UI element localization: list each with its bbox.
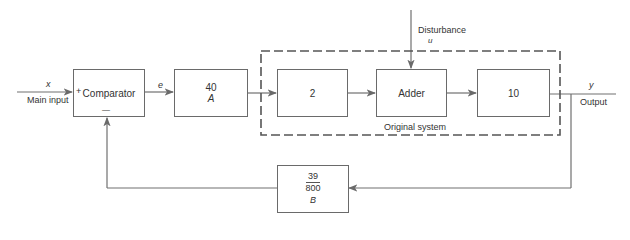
main-input-symbol: x bbox=[46, 79, 51, 89]
feedback-numerator: 39 bbox=[306, 171, 320, 183]
gain-10-block: 10 bbox=[477, 69, 550, 117]
output-symbol: y bbox=[589, 80, 594, 90]
main-input-label: Main input bbox=[27, 95, 69, 105]
gain-2-value: 2 bbox=[310, 88, 316, 99]
original-system-label: Original system bbox=[384, 122, 446, 132]
feedback-block: 39 800 B bbox=[277, 165, 349, 213]
feedback-denominator: 800 bbox=[305, 183, 320, 194]
output-label: Output bbox=[580, 97, 607, 107]
amplifier-gain: 40 bbox=[205, 82, 216, 93]
feedback-name: B bbox=[310, 194, 316, 207]
disturbance-symbol: u bbox=[428, 36, 432, 45]
plus-sign: + bbox=[76, 86, 81, 96]
amplifier-block: 40 A bbox=[174, 69, 248, 117]
error-signal-label: e bbox=[158, 80, 163, 90]
gain-10-value: 10 bbox=[508, 88, 519, 99]
comparator-label: Comparator bbox=[83, 88, 136, 99]
disturbance-label: Disturbance bbox=[418, 25, 466, 35]
minus-sign: — bbox=[102, 105, 110, 114]
amplifier-name: A bbox=[208, 93, 215, 104]
adder-label: Adder bbox=[398, 88, 425, 99]
gain-2-block: 2 bbox=[277, 69, 348, 117]
adder-block: Adder bbox=[376, 69, 447, 117]
